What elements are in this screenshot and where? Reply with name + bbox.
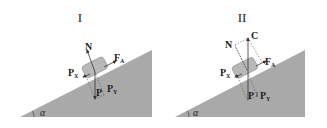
label-px-2: PX	[220, 67, 231, 79]
diagram-2-title: II	[238, 10, 247, 25]
label-alpha-2: α	[193, 107, 199, 118]
diagram-2: II C N FA PX P	[175, 10, 305, 118]
label-fa-2: FA	[265, 56, 276, 68]
label-n-2: N	[225, 39, 233, 50]
label-c: C	[251, 30, 258, 41]
diagram-1: I N FA PX P PY α	[20, 10, 152, 118]
label-px-1: PX	[68, 67, 79, 79]
label-p-2: P	[248, 90, 254, 101]
label-alpha-1: α	[40, 107, 46, 118]
label-n-1: N	[85, 41, 93, 52]
label-p-1: P	[96, 87, 102, 98]
diagram-1-title: I	[78, 10, 82, 25]
block-2	[231, 57, 258, 79]
label-fa-1: FA	[114, 52, 125, 64]
